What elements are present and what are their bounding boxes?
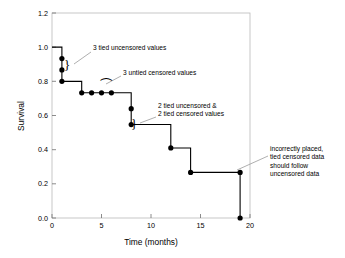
x-tick-label: 5: [100, 221, 104, 230]
y-tick-label: 0.4: [38, 145, 48, 154]
annot-3-tied-uncensored: 3 tied uncensored values: [93, 44, 167, 51]
y-tick-label: 1.0: [38, 43, 48, 52]
y-tick-label: 0.6: [38, 111, 48, 120]
data-point: [89, 90, 94, 95]
y-axis-title: Survival: [16, 101, 26, 131]
annot-3-untied-censored: 3 untied censored values: [123, 69, 197, 76]
x-tick-label: 0: [50, 221, 54, 230]
x-axis-ticks: [52, 214, 250, 218]
data-point: [79, 90, 84, 95]
x-tick-label: 10: [147, 221, 155, 230]
data-point: [129, 106, 134, 111]
annotation-line: uncensored data: [270, 170, 319, 177]
annotation-line: 2 tied uncensored &: [158, 102, 217, 109]
data-point: [188, 170, 193, 175]
annotation-line: tied censored data: [270, 153, 325, 160]
data-point: [168, 145, 173, 150]
annot-incorrectly-placed: incorrectly placed,tied censored datasho…: [270, 145, 325, 177]
annotation-line: incorrectly placed,: [270, 145, 323, 153]
x-axis-tick-labels: 0 5 10 15 20: [50, 221, 254, 230]
annotation-line: 3 tied uncensored values: [93, 44, 167, 51]
annotation-line: 2 tied censored values: [158, 110, 225, 117]
x-tick-label: 15: [197, 221, 205, 230]
annotation-leader-line: [140, 117, 156, 123]
data-point: [238, 215, 243, 220]
annotation-brace: }: [64, 57, 70, 72]
y-tick-label: 0.2: [38, 179, 48, 188]
annotation-brace: }: [131, 116, 137, 131]
data-point: [238, 170, 243, 175]
y-tick-label: 0.8: [38, 77, 48, 86]
data-point-markers: [59, 56, 242, 221]
annotation-line: 3 untied censored values: [123, 69, 197, 76]
data-point: [59, 79, 64, 84]
x-axis-title: Time (months): [124, 237, 178, 247]
annot-2-tied-mixed: 2 tied uncensored &2 tied censored value…: [158, 102, 225, 117]
annotation-layer: }3 tied uncensored values⁀3 untied censo…: [64, 44, 325, 177]
y-axis-ticks: [52, 13, 56, 218]
y-tick-label: 1.2: [38, 9, 48, 18]
survival-curve-figure: 1.2 1.0 0.8 0.6 0.4 0.2 0.0 0 5 10 15 20…: [0, 0, 345, 258]
annotation-leader-line: [74, 52, 91, 64]
y-axis-tick-labels: 1.2 1.0 0.8 0.6 0.4 0.2 0.0: [38, 9, 48, 223]
annotation-leader-line: [237, 156, 268, 170]
annotation-line: should follow: [270, 162, 308, 169]
y-tick-label: 0.0: [38, 214, 48, 223]
chart-canvas: 1.2 1.0 0.8 0.6 0.4 0.2 0.0 0 5 10 15 20…: [0, 0, 345, 258]
x-tick-label: 20: [246, 221, 254, 230]
